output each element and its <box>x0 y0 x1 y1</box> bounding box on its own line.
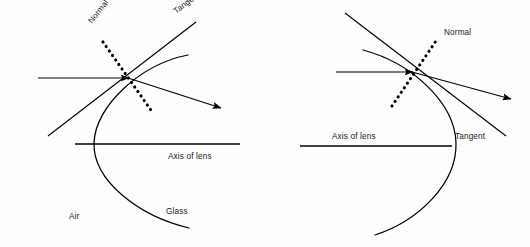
left-air-label: Air <box>69 212 80 221</box>
left-tangent-label: Tangent <box>172 0 202 16</box>
left-diagram: Normal Tangent Axis of lens Air Glass <box>38 0 240 228</box>
right-tangent-label: Tangent <box>455 132 486 141</box>
left-tangent-line <box>48 22 196 136</box>
left-glass-label: Glass <box>166 207 188 216</box>
right-diagram: Normal Tangent Axis of lens <box>300 13 511 235</box>
right-axis-of-lens-label: Axis of lens <box>332 132 376 141</box>
left-lens-surface-arc <box>94 55 189 228</box>
diagram-canvas: Normal Tangent Axis of lens Air Glass No… <box>0 0 530 247</box>
optics-figure: Normal Tangent Axis of lens Air Glass No… <box>0 0 530 247</box>
left-axis-of-lens-label: Axis of lens <box>168 152 212 161</box>
right-tangent-line <box>345 13 506 136</box>
left-normal-label: Normal <box>86 0 110 25</box>
right-normal-label: Normal <box>444 28 471 37</box>
left-refracted-ray <box>128 78 221 108</box>
